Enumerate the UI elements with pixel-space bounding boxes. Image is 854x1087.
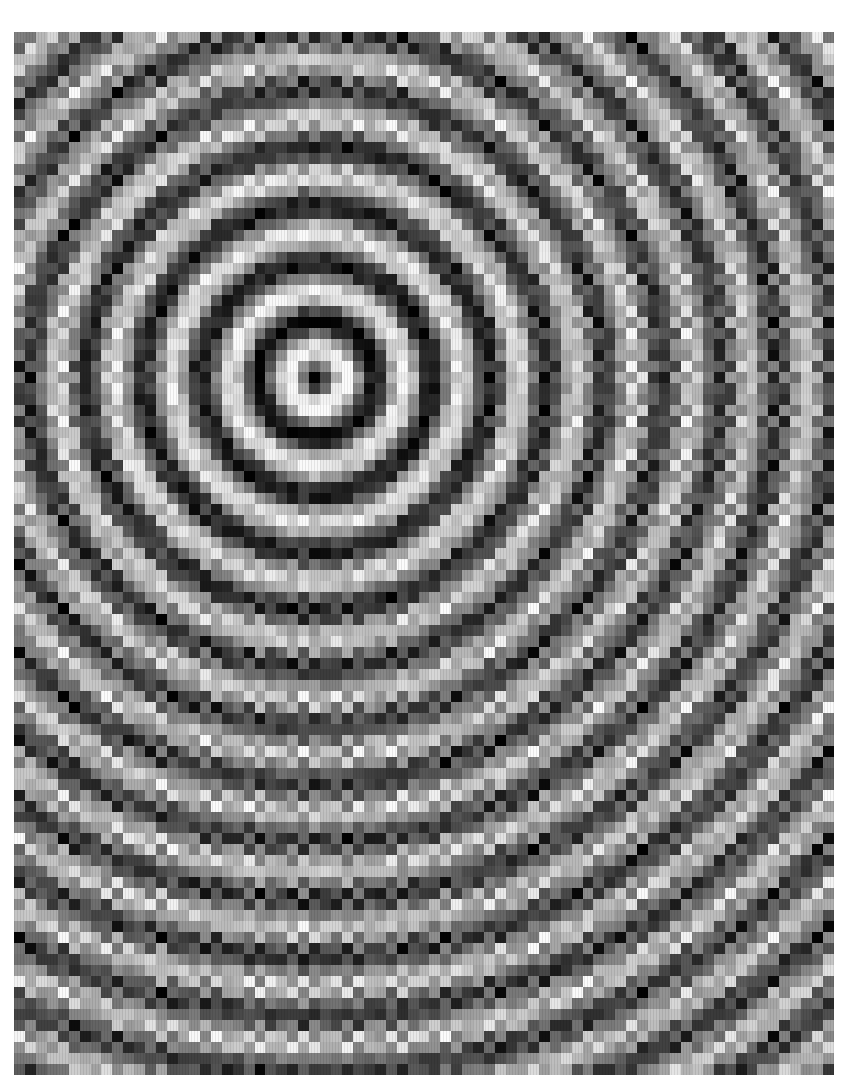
ring-pattern-canvas	[14, 32, 834, 1075]
interference-pattern-image	[14, 32, 834, 1075]
